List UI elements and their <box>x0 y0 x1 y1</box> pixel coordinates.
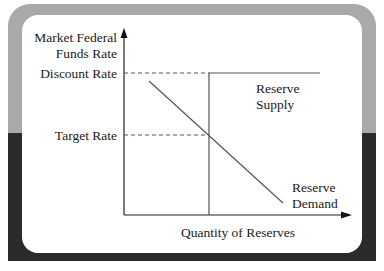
y-axis-arrow-icon <box>121 28 128 38</box>
diagram-stage: Market Federal Funds Rate Discount Rate … <box>0 0 384 271</box>
y-axis-label-line2: Funds Rate <box>56 46 117 61</box>
demand-label-line1: Reserve <box>292 180 335 195</box>
y-axis-label-line1: Market Federal <box>34 30 117 45</box>
supply-label-line1: Reserve <box>256 81 299 96</box>
discount-rate-label: Discount Rate <box>40 66 117 81</box>
x-axis-label: Quantity of Reserves <box>181 225 295 240</box>
x-axis-arrow-icon <box>341 212 352 219</box>
target-rate-label: Target Rate <box>55 128 117 143</box>
supply-label-line2: Supply <box>256 97 295 112</box>
demand-label-line2: Demand <box>292 196 338 211</box>
reserve-market-diagram: Market Federal Funds Rate Discount Rate … <box>0 0 384 271</box>
